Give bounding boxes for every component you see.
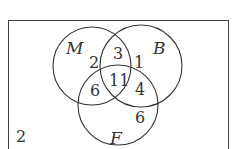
label-b: B	[152, 38, 166, 58]
region-b-only: 1	[134, 53, 144, 72]
region-m-b-f: 11	[109, 71, 129, 90]
label-m: M	[65, 38, 84, 58]
region-m-f: 6	[90, 81, 100, 100]
region-f-only: 6	[135, 108, 145, 127]
venn-diagram: M B F 2 3 1 6 11 4 6 2	[0, 0, 232, 149]
region-m-b: 3	[113, 44, 123, 63]
region-b-f: 4	[135, 80, 145, 99]
region-outside: 2	[16, 127, 26, 146]
label-f: F	[109, 128, 123, 148]
region-m-only: 2	[89, 53, 99, 72]
